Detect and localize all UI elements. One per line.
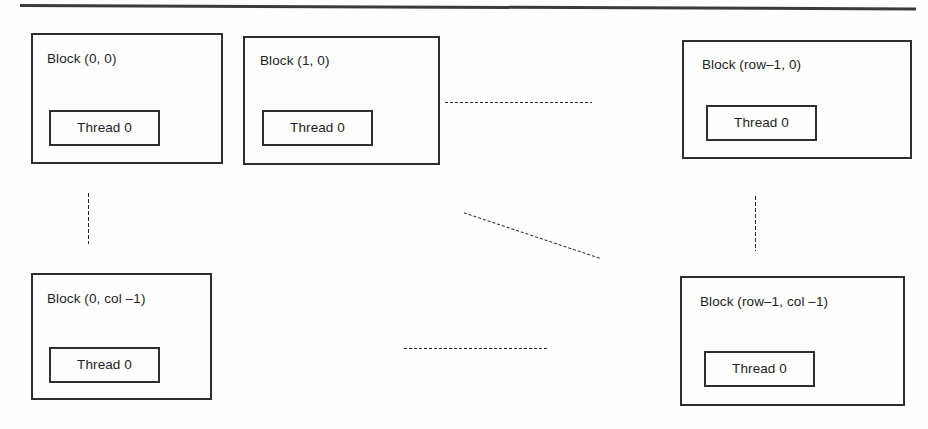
block-1-0-label: Block (1, 0) bbox=[260, 54, 329, 68]
horizontal-rule bbox=[20, 4, 916, 10]
block-0-col1-label: Block (0, col –1) bbox=[47, 292, 146, 306]
block-0-col1[interactable]: Block (0, col –1) Thread 0 bbox=[31, 273, 212, 400]
block-row1-col1-label: Block (row–1, col –1) bbox=[700, 295, 828, 309]
block-row1-0-label: Block (row–1, 0) bbox=[702, 58, 801, 72]
thread-box-row1-0[interactable]: Thread 0 bbox=[706, 105, 817, 141]
thread-box-1-0[interactable]: Thread 0 bbox=[262, 110, 373, 146]
ellipsis-dots-top-row bbox=[444, 101, 592, 104]
thread-box-row1-0-label: Thread 0 bbox=[734, 116, 789, 130]
block-row1-col1[interactable]: Block (row–1, col –1) Thread 0 bbox=[680, 276, 905, 406]
thread-box-0-col1[interactable]: Thread 0 bbox=[49, 347, 160, 383]
ellipsis-dots-left-column bbox=[87, 192, 90, 244]
thread-box-row1-col1[interactable]: Thread 0 bbox=[704, 351, 815, 387]
thread-box-0-col1-label: Thread 0 bbox=[77, 358, 132, 372]
ellipsis-dots-bottom-row bbox=[403, 347, 549, 350]
block-0-0[interactable]: Block (0, 0) Thread 0 bbox=[31, 33, 223, 164]
block-0-0-label: Block (0, 0) bbox=[47, 52, 116, 66]
block-1-0[interactable]: Block (1, 0) Thread 0 bbox=[243, 36, 440, 165]
ellipsis-dots-diagonal bbox=[463, 211, 601, 260]
figure-canvas: Block (0, 0) Thread 0 Block (1, 0) Threa… bbox=[0, 0, 928, 429]
block-row1-0[interactable]: Block (row–1, 0) Thread 0 bbox=[682, 40, 912, 159]
thread-box-0-0[interactable]: Thread 0 bbox=[49, 110, 160, 146]
thread-box-1-0-label: Thread 0 bbox=[290, 121, 345, 135]
ellipsis-dots-right-column bbox=[754, 195, 757, 251]
thread-box-row1-col1-label: Thread 0 bbox=[732, 362, 787, 376]
thread-box-0-0-label: Thread 0 bbox=[77, 121, 132, 135]
